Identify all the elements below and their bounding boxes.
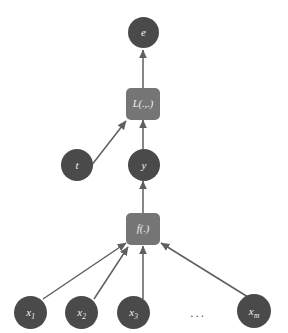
op-box-model-label: f(.) [137, 224, 150, 235]
edge-input-x2-to-model [94, 247, 128, 299]
node-output: y [128, 149, 160, 181]
op-box-model: f(.) [126, 213, 160, 245]
node-input-x2: x2 [65, 296, 98, 329]
computational-graph-figure: e L(.,.) t y f(.) x1 x2 x3 xm ... [0, 0, 288, 333]
node-input-x1: x1 [14, 296, 47, 329]
node-input-x3: x3 [117, 296, 150, 329]
node-error: e [128, 17, 159, 48]
node-error-label: e [141, 27, 146, 38]
node-input-xm: xm [237, 294, 271, 328]
edge-target-to-loss [91, 121, 126, 166]
inputs-ellipsis: ... [190, 306, 206, 319]
node-output-label: y [142, 160, 147, 171]
node-target: t [61, 149, 93, 181]
op-box-loss-label: L(.,.) [133, 99, 154, 110]
node-input-x3-label: x3 [129, 307, 138, 318]
node-input-x2-label: x2 [77, 307, 86, 318]
node-input-x1-label: x1 [26, 307, 35, 318]
op-box-loss: L(.,.) [126, 88, 160, 120]
edge-input-xm-to-model [161, 243, 248, 297]
node-target-label: t [75, 160, 78, 171]
edge-input-x1-to-model [43, 243, 126, 299]
node-input-xm-label: xm [249, 306, 259, 317]
